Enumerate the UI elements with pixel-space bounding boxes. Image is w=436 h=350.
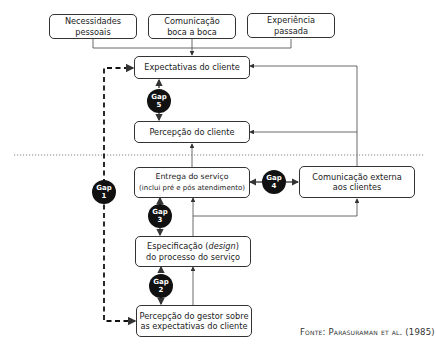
box-percepcao-do-gestor: Percepção do gestor sobreas expectativas…	[136, 305, 252, 337]
label: Comunicação externa	[312, 172, 401, 182]
label: (inclui pré e pós atendimento)	[139, 184, 245, 192]
source-year: (1985)	[402, 327, 434, 337]
gap-3-badge: Gap3	[148, 204, 172, 228]
box-necessidades-pessoais: Necessidadespessoais	[49, 14, 137, 39]
label: Expectativas do cliente	[144, 62, 240, 73]
label: Necessidades	[65, 16, 121, 26]
label: pessoais	[75, 27, 110, 37]
label: aos clientes	[333, 182, 382, 192]
box-comunicacao-externa: Comunicação externaaos clientes	[299, 166, 415, 198]
gap-number: 3	[158, 216, 163, 224]
box-experiencia-passada: Experiênciapassada	[247, 13, 335, 38]
label: )	[236, 241, 239, 251]
box-percepcao-do-cliente: Percepção do cliente	[134, 121, 250, 143]
source-caption: Fonte: Parasuraman et al. (1985)	[300, 327, 435, 337]
label: Comunicação	[164, 16, 219, 26]
label: design	[209, 241, 236, 251]
box-comunicacao-boca-a-boca: Comunicaçãoboca a boca	[148, 14, 236, 39]
label: passada	[274, 26, 308, 36]
gap-label: Gap	[153, 278, 168, 286]
label: Percepção do gestor sobre	[140, 311, 249, 321]
label: Especificação (	[147, 241, 208, 251]
label: as expectativas do cliente	[140, 321, 247, 331]
gap-label: Gap	[96, 184, 111, 192]
label: Percepção do cliente	[149, 127, 234, 138]
gap-number: 5	[157, 101, 162, 109]
gap-2-badge: Gap2	[149, 274, 173, 298]
source-prefix: Fonte:	[300, 327, 329, 337]
gap-1-badge: Gap1	[92, 180, 116, 204]
gap-4-badge: Gap4	[262, 170, 286, 194]
gap-number: 2	[159, 286, 164, 294]
gap-label: Gap	[266, 174, 281, 182]
gap-5-badge: Gap5	[147, 89, 171, 113]
box-entrega-do-servico: Entrega do serviço(inclui pré e pós aten…	[134, 167, 250, 198]
gap-number: 4	[272, 182, 277, 190]
label: do processo do serviço	[146, 252, 240, 262]
gap-label: Gap	[152, 208, 167, 216]
box-especificacao-do-processo: Especificação (design)do processo do ser…	[135, 236, 251, 267]
gap-number: 1	[102, 192, 107, 200]
label: boca a boca	[167, 27, 217, 37]
source-name: Parasuraman et al.	[329, 327, 403, 337]
label: Entrega do serviço	[155, 172, 228, 181]
box-expectativas-do-cliente: Expectativas do cliente	[134, 56, 250, 79]
label: Experiência	[267, 15, 315, 25]
gap-label: Gap	[151, 93, 166, 101]
